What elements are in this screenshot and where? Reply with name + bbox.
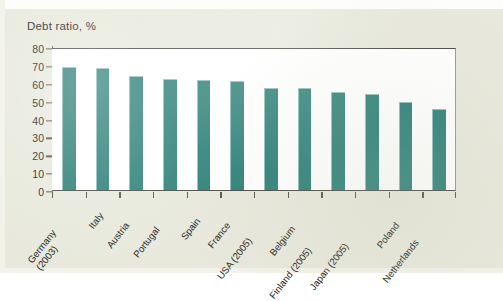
bar bbox=[432, 109, 446, 190]
bar bbox=[62, 67, 76, 190]
y-tick-mark bbox=[46, 138, 52, 139]
x-tick-label: Portugal bbox=[132, 225, 162, 260]
bar bbox=[230, 81, 244, 190]
x-tick-mark bbox=[153, 192, 154, 198]
x-tick-mark bbox=[52, 192, 53, 198]
bar bbox=[264, 88, 278, 190]
y-tick-mark bbox=[46, 48, 52, 49]
chart-title: Debt ratio, % bbox=[27, 20, 96, 32]
y-tick-mark bbox=[46, 156, 52, 157]
x-tick-label: Spain bbox=[179, 216, 202, 242]
x-tick-mark bbox=[220, 192, 221, 198]
x-tick-label: Poland bbox=[375, 221, 402, 251]
y-tick-mark bbox=[46, 102, 52, 103]
bar bbox=[96, 68, 110, 190]
bar bbox=[399, 102, 413, 190]
x-tick-label: Italy bbox=[87, 211, 106, 231]
x-tick-mark bbox=[321, 192, 322, 198]
x-tick-mark bbox=[119, 192, 120, 198]
x-tick-mark bbox=[389, 192, 390, 198]
bar bbox=[365, 94, 379, 190]
y-tick-mark bbox=[46, 173, 52, 174]
x-tick-mark bbox=[254, 192, 255, 198]
bar bbox=[298, 88, 312, 190]
x-tick-label: USA (2005) bbox=[216, 236, 255, 282]
page-top-margin bbox=[0, 0, 503, 9]
plot-area: 01020304050607080 bbox=[52, 48, 456, 191]
bar bbox=[331, 92, 345, 190]
x-tick-mark bbox=[86, 192, 87, 198]
bar bbox=[163, 79, 177, 190]
x-tick-mark bbox=[355, 192, 356, 198]
x-tick-mark bbox=[422, 192, 423, 198]
bar bbox=[129, 76, 143, 190]
x-tick-label: Germany (2003) bbox=[26, 228, 67, 272]
y-tick-mark bbox=[46, 120, 52, 121]
page-left-margin bbox=[0, 0, 5, 273]
x-tick-label: Austria bbox=[105, 221, 132, 251]
page-bottom-margin bbox=[0, 268, 503, 273]
x-tick-label: Belgium bbox=[268, 224, 298, 258]
x-tick-mark bbox=[455, 192, 456, 198]
y-tick-mark bbox=[46, 66, 52, 67]
y-tick-mark bbox=[46, 84, 52, 85]
x-tick-mark bbox=[288, 192, 289, 198]
bar bbox=[197, 80, 211, 190]
x-tick-mark bbox=[187, 192, 188, 198]
x-tick-label: France bbox=[206, 221, 233, 251]
